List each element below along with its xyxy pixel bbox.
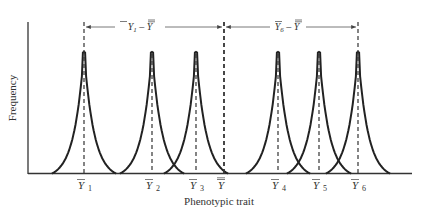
mean-label-y2: Y2 <box>145 179 160 193</box>
deviation-arrow-y1: Y1 – Y <box>86 20 222 34</box>
svg-text:Y: Y <box>313 179 321 191</box>
svg-text:6: 6 <box>362 184 366 193</box>
svg-text:Y: Y <box>272 179 280 191</box>
dev6-grand: Y <box>294 21 301 32</box>
mean-label-ygrand: Y <box>217 178 226 191</box>
mean-lines <box>84 22 358 174</box>
svg-text:Y: Y <box>78 179 86 191</box>
x-axis-label: Phenotypic trait <box>184 195 254 207</box>
svg-text:Y1 – Y: Y1 – Y <box>128 21 154 34</box>
mean-label-y6: Y6 <box>351 179 366 193</box>
dev6-minus: – <box>284 21 294 32</box>
svg-text:Y: Y <box>146 179 154 191</box>
mean-label-y5: Y5 <box>312 179 327 193</box>
svg-text:5: 5 <box>323 184 327 193</box>
dev1-grand: Y <box>147 21 154 32</box>
svg-text:3: 3 <box>200 184 204 193</box>
y-axis-label: Frequency <box>6 74 18 121</box>
svg-text:Y: Y <box>218 179 226 191</box>
mean-label-y3: Y3 <box>189 179 204 193</box>
svg-text:4: 4 <box>282 184 286 193</box>
svg-text:Y: Y <box>352 179 360 191</box>
deviation-arrow-y6: Y6 – Y <box>226 20 356 34</box>
svg-text:2: 2 <box>156 184 160 193</box>
mean-label-y1: Y1 <box>77 179 92 193</box>
phenotypic-distribution-diagram: Frequency Phenotypic trait Y1Y2Y3YY4Y5Y6… <box>0 0 422 213</box>
dev1-minus: – <box>137 21 147 32</box>
svg-text:Y: Y <box>190 179 198 191</box>
distribution-curves <box>52 52 390 174</box>
mean-labels: Y1Y2Y3YY4Y5Y6 <box>77 178 366 193</box>
svg-text:1: 1 <box>88 184 92 193</box>
svg-text:Y6 – Y: Y6 – Y <box>275 21 301 34</box>
mean-label-y4: Y4 <box>271 179 286 193</box>
